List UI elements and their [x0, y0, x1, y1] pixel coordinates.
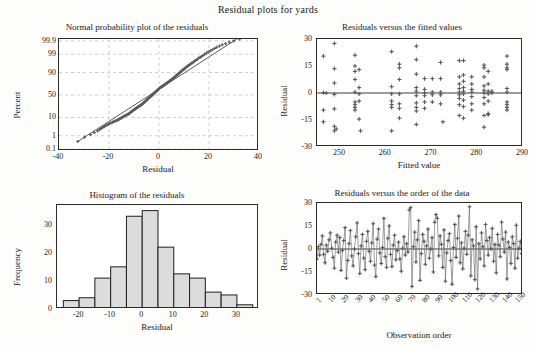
- rvo-xtick: 80: [420, 293, 432, 305]
- rvo-ytick: -30: [280, 290, 312, 299]
- hist-ylabel: Frequency: [12, 234, 22, 300]
- rvo-xtick: 10: [326, 293, 338, 305]
- hist-xtick: -10: [104, 310, 115, 319]
- normal-plot-ytick: 50: [24, 90, 56, 99]
- normal-plot-ytick: 99.9: [24, 35, 56, 44]
- rvo-canvas: [317, 203, 522, 294]
- rvo-ytick: 15: [280, 221, 312, 230]
- normal-plot-xtick: -20: [103, 152, 114, 161]
- rvo-title: Residuals versus the order of the data: [272, 188, 532, 198]
- hist-canvas: [57, 205, 258, 308]
- panel-normal-probability-plot: Normal probability plot of the residuals…: [6, 22, 268, 182]
- hist-ytick: 0: [20, 304, 52, 313]
- rvf-xtick: 290: [516, 148, 528, 157]
- normal-plot-xtick: 20: [204, 152, 212, 161]
- panel-residuals-vs-order: Residuals versus the order of the data R…: [272, 188, 532, 348]
- hist-box: [56, 204, 258, 308]
- hist-xtick: 20: [200, 310, 208, 319]
- rvf-xtick: 250: [333, 148, 345, 157]
- normal-plot-canvas: [59, 39, 258, 150]
- normal-plot-ylabel: Percent: [12, 75, 22, 135]
- normal-plot-ytick: 1: [24, 130, 56, 139]
- normal-plot-ytick: 0.1: [24, 144, 56, 153]
- rvo-xtick: 90: [433, 293, 445, 305]
- rvo-xtick: 70: [406, 293, 418, 305]
- hist-ytick: 30: [20, 219, 52, 228]
- rvo-box: [316, 202, 522, 294]
- hist-ytick: 20: [20, 247, 52, 256]
- normal-plot-ytick: 10: [24, 112, 56, 121]
- panel-histogram-of-residuals: Histogram of the residuals Frequency 010…: [6, 190, 268, 348]
- normal-plot-xtick: -40: [53, 152, 64, 161]
- rvo-xtick: 40: [366, 293, 378, 305]
- rvo-xtick: 20: [339, 293, 351, 305]
- rvf-ytick: -30: [280, 142, 312, 151]
- normal-plot-xtick: 0: [156, 152, 160, 161]
- normal-plot-ytick: 90: [24, 67, 56, 76]
- rvf-xtick: 270: [424, 148, 436, 157]
- rvf-ytick: 30: [280, 34, 312, 43]
- rvf-box: [316, 38, 522, 146]
- rvo-ylabel: Residual: [279, 225, 289, 285]
- rvo-xlabel: Observation order: [316, 330, 522, 340]
- rvf-xtick: 280: [470, 148, 482, 157]
- rvo-ytick: 0: [280, 244, 312, 253]
- normal-plot-xtick: 40: [254, 152, 262, 161]
- rvo-xtick: 1: [314, 295, 323, 304]
- rvo-xtick: 60: [393, 293, 405, 305]
- rvf-ytick: 0: [280, 88, 312, 97]
- rvf-ytick: -15: [280, 115, 312, 124]
- hist-xtick: 30: [232, 310, 240, 319]
- hist-ytick: 10: [20, 275, 52, 284]
- rvo-ytick: -15: [280, 267, 312, 276]
- hist-xlabel: Residual: [56, 322, 258, 332]
- rvf-ytick: 15: [280, 61, 312, 70]
- hist-xtick: -20: [73, 310, 84, 319]
- figure-title: Residual plots for yards: [0, 4, 536, 15]
- hist-xtick: 10: [169, 310, 177, 319]
- rvf-canvas: [317, 39, 522, 146]
- normal-plot-xlabel: Residual: [58, 164, 258, 174]
- normal-plot-box: [58, 38, 258, 150]
- normal-plot-ytick: 99: [24, 49, 56, 58]
- rvf-xlabel: Fitted value: [316, 160, 522, 170]
- rvo-xtick: 50: [380, 293, 392, 305]
- normal-plot-title: Normal probability plot of the residuals: [6, 22, 268, 32]
- hist-xtick: 0: [139, 310, 143, 319]
- panel-residuals-vs-fitted: Residuals versus the fitted values Resid…: [272, 22, 532, 182]
- hist-title: Histogram of the residuals: [6, 190, 268, 200]
- rvf-title: Residuals versus the fitted values: [272, 22, 532, 32]
- rvo-ytick: 30: [280, 198, 312, 207]
- rvf-xtick: 260: [379, 148, 391, 157]
- rvo-xtick: 30: [353, 293, 365, 305]
